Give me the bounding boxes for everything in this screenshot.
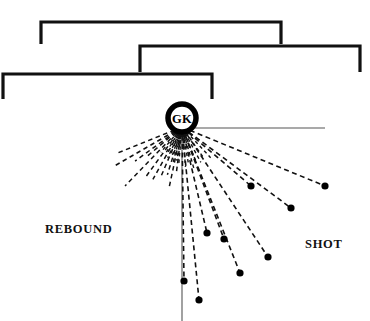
shot-rebound-diagram: GK REBOUND SHOT (0, 0, 370, 321)
shot-ray-2 (182, 127, 251, 186)
shot-endpoint-dot-5 (203, 229, 210, 236)
shot-endpoint-dot-3 (264, 253, 271, 260)
shot-endpoint-dot-6 (195, 296, 202, 303)
outer-frame (41, 22, 281, 44)
shot-ray-0 (182, 127, 325, 186)
goal-frame-group (3, 22, 360, 99)
shot-endpoint-dot-7 (220, 235, 227, 242)
shot-endpoint-dot-1 (287, 204, 294, 211)
shot-endpoint-dot-8 (180, 277, 187, 284)
goalkeeper-marker: GK (168, 104, 196, 132)
rebound-ray-group (114, 127, 182, 188)
goalkeeper-label: GK (172, 112, 192, 126)
diagram-canvas: GK (0, 0, 370, 321)
shot-ray-group (182, 127, 325, 300)
rebound-zone-label: REBOUND (45, 222, 112, 237)
shot-endpoint-dot-2 (247, 182, 254, 189)
shot-endpoint-dot-0 (321, 182, 328, 189)
shot-endpoint-dot-4 (236, 269, 243, 276)
shot-zone-label: SHOT (305, 237, 343, 252)
inner-frame (3, 74, 212, 99)
middle-frame (140, 46, 360, 72)
shot-ray-7 (182, 127, 224, 239)
